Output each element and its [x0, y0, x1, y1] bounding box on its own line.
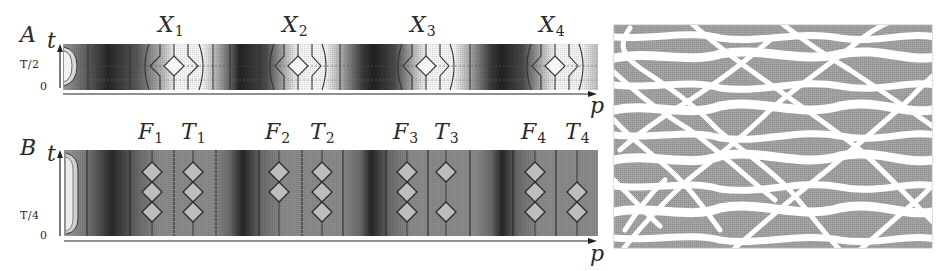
- interference-pattern-panel: [0, 0, 951, 271]
